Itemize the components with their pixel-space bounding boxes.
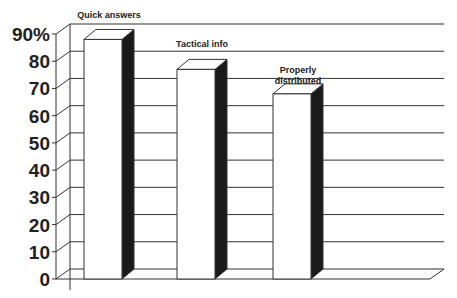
bar-side xyxy=(122,29,134,279)
y-tick-label: 20 xyxy=(29,215,50,236)
bar-front xyxy=(177,69,215,279)
category-label: Properly xyxy=(280,65,317,75)
gridline-side xyxy=(56,106,70,116)
gridline-side xyxy=(56,187,70,197)
gridline-side xyxy=(56,78,70,88)
bar-front xyxy=(84,39,122,279)
gridline-side xyxy=(56,242,70,252)
bar xyxy=(84,29,134,279)
y-tick-label: 30 xyxy=(29,187,50,208)
y-tick-label: 80 xyxy=(29,51,50,72)
category-label: Quick answers xyxy=(77,10,141,20)
y-tick-label: 40 xyxy=(29,160,50,181)
y-tick-label: 50 xyxy=(29,133,50,154)
gridline-side xyxy=(56,51,70,61)
y-tick-label: 0 xyxy=(39,269,50,290)
gridline-side xyxy=(56,160,70,170)
bar xyxy=(177,59,227,279)
bar-side xyxy=(215,59,227,279)
category-label: distributed xyxy=(275,76,322,86)
bar-front xyxy=(273,94,311,279)
gridline-side xyxy=(56,24,70,34)
bar-chart: 0102030405060708090% Quick answersTactic… xyxy=(0,0,457,298)
gridline-side xyxy=(56,215,70,225)
gridline-side xyxy=(56,133,70,143)
category-label: Tactical info xyxy=(176,39,228,49)
y-axis-ticks: 0102030405060708090% xyxy=(12,24,56,290)
y-tick-label: 10 xyxy=(29,242,50,263)
bar-side xyxy=(311,84,323,279)
gridline-side xyxy=(56,269,70,279)
y-tick-label: 60 xyxy=(29,106,50,127)
bar xyxy=(273,84,323,279)
y-tick-label: 70 xyxy=(29,78,50,99)
y-tick-label: 90% xyxy=(12,24,50,45)
